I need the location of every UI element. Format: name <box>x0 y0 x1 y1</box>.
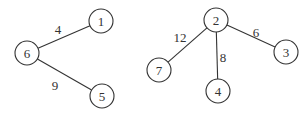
node-label: 1 <box>98 14 105 29</box>
edge-line <box>37 59 91 90</box>
weighted-graph-diagram: 491286 1652743 <box>0 0 308 121</box>
edge-weight-label: 6 <box>253 25 260 40</box>
node-5: 5 <box>90 84 114 108</box>
edge-weight-label: 4 <box>55 22 62 37</box>
node-4: 4 <box>206 79 230 103</box>
node-1: 1 <box>89 9 113 33</box>
node-label: 2 <box>213 13 220 28</box>
edge-line <box>216 32 217 79</box>
edge-line <box>227 25 275 47</box>
edge-line <box>38 26 90 48</box>
edge-6-1: 4 <box>38 22 90 48</box>
node-label: 6 <box>24 46 31 61</box>
edge-2-4: 8 <box>216 32 226 79</box>
node-label: 4 <box>215 84 222 99</box>
edge-weight-label: 8 <box>220 50 227 65</box>
edge-weight-label: 9 <box>52 78 59 93</box>
node-3: 3 <box>274 40 298 64</box>
edge-weight-label: 12 <box>174 30 187 45</box>
node-label: 3 <box>283 45 290 60</box>
node-label: 7 <box>156 63 163 78</box>
edge-2-7: 12 <box>168 28 207 62</box>
edges-layer: 491286 <box>37 22 275 93</box>
edge-2-3: 6 <box>227 25 275 47</box>
node-label: 5 <box>99 89 106 104</box>
node-2: 2 <box>204 8 228 32</box>
edge-6-5: 9 <box>37 59 91 93</box>
node-7: 7 <box>147 58 171 82</box>
node-6: 6 <box>15 41 39 65</box>
